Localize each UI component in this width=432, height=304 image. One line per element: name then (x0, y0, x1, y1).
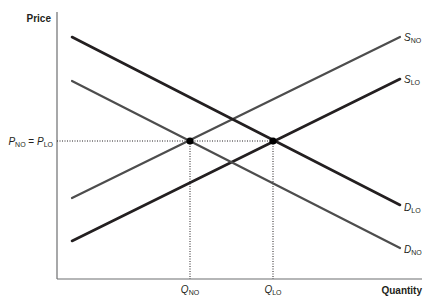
label-q-lo: QLO (264, 284, 282, 296)
supply-curve-lo (72, 79, 400, 241)
label-d-lo: DLO (404, 202, 421, 214)
label-d-no: DNO (404, 244, 422, 256)
label-s-lo: SLO (404, 74, 421, 86)
equilibrium-point-lo (269, 137, 276, 144)
label-s-no: SNO (404, 32, 422, 44)
label-price-equilibrium: PNO = PLO (8, 136, 53, 148)
supply-demand-diagram: Price Quantity SNO SLO DLO DNO QNO QLO P… (0, 0, 432, 304)
y-axis-title: Price (27, 13, 52, 24)
demand-curve-no (72, 81, 400, 248)
label-q-no: QNO (181, 284, 200, 296)
x-axis-title: Quantity (381, 285, 422, 296)
equilibrium-point-no (186, 137, 193, 144)
